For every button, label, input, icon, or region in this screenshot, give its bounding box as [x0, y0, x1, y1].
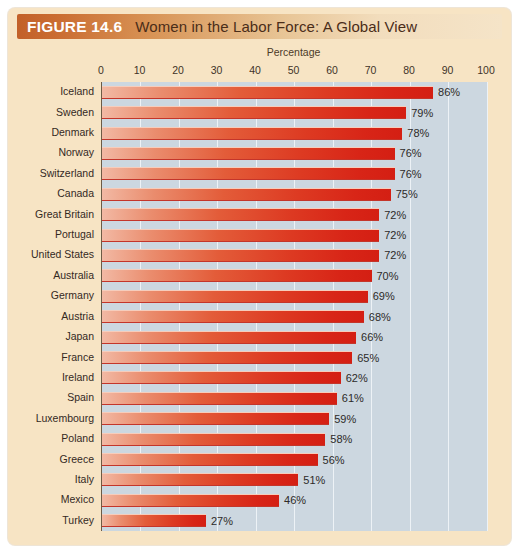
bar [102, 412, 329, 425]
bar-value-label: 66% [356, 331, 383, 343]
bar-value-label: 72% [379, 209, 406, 221]
bar [102, 433, 325, 446]
bar-row: 56% [102, 453, 487, 466]
category-label: Australia [8, 269, 94, 281]
bar [102, 371, 341, 384]
category-label: Ireland [8, 371, 94, 383]
bar [102, 188, 391, 201]
category-label: Portugal [8, 228, 94, 240]
bar-row: 70% [102, 269, 487, 282]
bar-row: 51% [102, 473, 487, 486]
x-axis-tick-row: 0102030405060708090100 [8, 64, 511, 78]
bar [102, 208, 379, 221]
bar-value-label: 78% [402, 127, 429, 139]
bar-row: 65% [102, 351, 487, 364]
bar [102, 392, 337, 405]
figure-number-label: FIGURE 14.6 [27, 18, 122, 36]
category-label: Great Britain [8, 208, 94, 220]
category-label: Norway [8, 146, 94, 158]
bar-row: 72% [102, 208, 487, 221]
category-label: Luxembourg [8, 412, 94, 424]
bar-value-label: 51% [298, 474, 325, 486]
bar-row: 72% [102, 249, 487, 262]
category-label: Germany [8, 289, 94, 301]
x-axis-tick-label: 50 [288, 64, 300, 76]
bar [102, 351, 352, 364]
bar [102, 494, 279, 507]
figure-card: FIGURE 14.6 Women in the Labor Force: A … [8, 8, 511, 545]
category-label: Switzerland [8, 167, 94, 179]
x-axis-tick-label: 70 [365, 64, 377, 76]
x-axis-tick-label: 100 [477, 64, 495, 76]
bar-row: 61% [102, 392, 487, 405]
category-label: Mexico [8, 493, 94, 505]
bar-value-label: 75% [391, 188, 418, 200]
x-axis-tick-label: 90 [442, 64, 454, 76]
figure-header: FIGURE 14.6 Women in the Labor Force: A … [17, 14, 502, 39]
bar-value-label: 27% [206, 515, 233, 527]
bar-row: 59% [102, 412, 487, 425]
bar-row: 72% [102, 229, 487, 242]
bar [102, 127, 402, 140]
figure-title: Women in the Labor Force: A Global View [135, 18, 417, 35]
category-label: France [8, 351, 94, 363]
bar-row: 79% [102, 106, 487, 119]
category-label: Poland [8, 432, 94, 444]
bar [102, 269, 372, 282]
bar-value-label: 86% [433, 86, 460, 98]
x-axis-title: Percentage [101, 46, 486, 58]
bar-row: 66% [102, 331, 487, 344]
bar-value-label: 72% [379, 229, 406, 241]
bar [102, 249, 379, 262]
bar-value-label: 79% [406, 107, 433, 119]
bar-row: 86% [102, 86, 487, 99]
category-label: Canada [8, 187, 94, 199]
category-label: Iceland [8, 85, 94, 97]
bar [102, 310, 364, 323]
category-label: Greece [8, 453, 94, 465]
category-label: Turkey [8, 514, 94, 526]
bar [102, 86, 433, 99]
bar-value-label: 61% [337, 392, 364, 404]
bar [102, 106, 406, 119]
x-axis-tick-label: 40 [249, 64, 261, 76]
x-axis-tick-label: 80 [403, 64, 415, 76]
bar [102, 514, 206, 527]
bar-row: 78% [102, 127, 487, 140]
bar-value-label: 59% [329, 413, 356, 425]
bar [102, 453, 318, 466]
category-label: Italy [8, 473, 94, 485]
bar-value-label: 46% [279, 494, 306, 506]
x-axis-tick-label: 10 [134, 64, 146, 76]
category-labels: IcelandSwedenDenmarkNorwaySwitzerlandCan… [8, 82, 94, 531]
bar-value-label: 65% [352, 352, 379, 364]
bar-value-label: 56% [318, 454, 345, 466]
category-label: Sweden [8, 106, 94, 118]
plot-area: 86%79%78%76%76%75%72%72%72%70%69%68%66%6… [101, 82, 487, 531]
bar-row: 76% [102, 147, 487, 160]
bar-row: 68% [102, 310, 487, 323]
bar-row: 27% [102, 514, 487, 527]
category-label: Spain [8, 391, 94, 403]
bar-value-label: 76% [395, 147, 422, 159]
bar-row: 46% [102, 494, 487, 507]
x-axis-tick-label: 20 [172, 64, 184, 76]
bar-row: 76% [102, 167, 487, 180]
bar-value-label: 58% [325, 433, 352, 445]
bar-rows: 86%79%78%76%76%75%72%72%72%70%69%68%66%6… [102, 82, 487, 531]
bar-value-label: 72% [379, 249, 406, 261]
bar-value-label: 62% [341, 372, 368, 384]
bar-row: 69% [102, 290, 487, 303]
category-label: Japan [8, 330, 94, 342]
x-axis-tick-label: 30 [211, 64, 223, 76]
bar [102, 147, 395, 160]
bar-value-label: 76% [395, 168, 422, 180]
bar-value-label: 69% [368, 290, 395, 302]
bar-value-label: 70% [372, 270, 399, 282]
bar [102, 229, 379, 242]
bar [102, 167, 395, 180]
bar [102, 331, 356, 344]
x-axis-tick-label: 60 [326, 64, 338, 76]
category-label: United States [8, 248, 94, 260]
category-label: Denmark [8, 126, 94, 138]
